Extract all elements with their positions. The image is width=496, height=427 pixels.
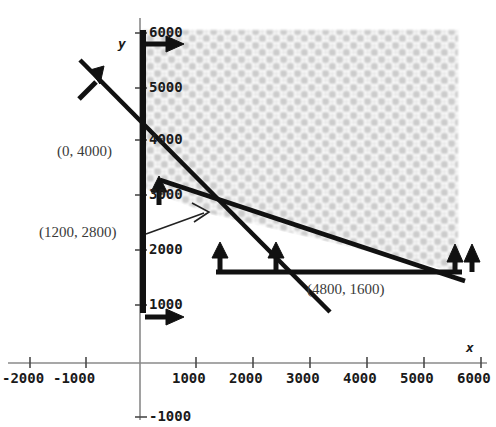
x-tick-3000: 3000	[286, 370, 320, 386]
y-axis-label: y	[118, 36, 126, 51]
x-tick-4000: 4000	[343, 370, 377, 386]
arrow-up-right-b	[464, 244, 480, 272]
x-tick-minus-2000: -2000	[2, 370, 44, 386]
y-tick-minus-1000: -1000	[149, 408, 191, 424]
y-tick-6000: 6000	[149, 24, 183, 40]
y-tick-5000: 5000	[149, 79, 183, 95]
annotation-4800-1600: (4800, 1600)	[307, 281, 385, 298]
x-axis-label: x	[466, 340, 474, 355]
x-tick-1000: 1000	[172, 370, 206, 386]
x-tick-6000: 6000	[457, 370, 491, 386]
y-tick-2000: 2000	[149, 241, 183, 257]
y-tick-3000: 3000	[149, 186, 183, 202]
x-tick-minus-1000: -1000	[53, 370, 95, 386]
x-tick-2000: 2000	[229, 370, 263, 386]
arrow-steep-upper	[79, 66, 104, 99]
x-tick-5000: 5000	[400, 370, 434, 386]
linear-programming-graph: 6000 5000 4000 3000 2000 1000 -1000 -200…	[0, 0, 496, 427]
annotation-0-4000: (0, 4000)	[57, 143, 112, 160]
graph-canvas	[0, 0, 496, 427]
y-tick-4000: 4000	[149, 131, 183, 147]
annotation-1200-2800: (1200, 2800)	[39, 224, 117, 241]
y-tick-1000: 1000	[149, 296, 183, 312]
